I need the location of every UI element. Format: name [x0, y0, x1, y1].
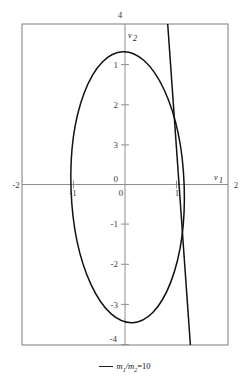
y-tick-label-0: 0 — [114, 174, 119, 184]
y-tick-label-neg2: -2 — [111, 259, 119, 269]
svg-text:v: v — [214, 173, 218, 182]
chart-figure: 4 -2 2 -4 3 2 1 0 -1 -2 -3 -1 0 1 v 2 v … — [0, 0, 249, 381]
svg-text:1: 1 — [219, 176, 223, 185]
x-tick-label-origin: 0 — [119, 188, 124, 198]
y-tick-label-neg1: -1 — [111, 219, 119, 229]
y-tick-label-neg3: -3 — [111, 300, 119, 310]
legend-item: m1/m2=10 — [99, 361, 151, 373]
x-tick-label-neg1: -1 — [69, 188, 77, 198]
y-tick-label-1: 1 — [114, 60, 119, 70]
y-tick-label-2: 2 — [114, 100, 119, 110]
y-tick-label-3: 3 — [114, 140, 119, 150]
svg-text:v: v — [128, 31, 132, 40]
axis-top-label: 4 — [118, 10, 123, 20]
legend-line-swatch — [99, 366, 113, 367]
axis-left-label: -2 — [12, 180, 20, 190]
axis-right-label: 2 — [234, 180, 239, 190]
x-tick-label-1: 1 — [175, 188, 180, 198]
axis-bottom-label: -4 — [110, 334, 118, 344]
chart-legend: m1/m2=10 — [0, 353, 249, 372]
svg-text:2: 2 — [133, 34, 137, 43]
legend-item-label: m1/m2=10 — [117, 361, 151, 373]
